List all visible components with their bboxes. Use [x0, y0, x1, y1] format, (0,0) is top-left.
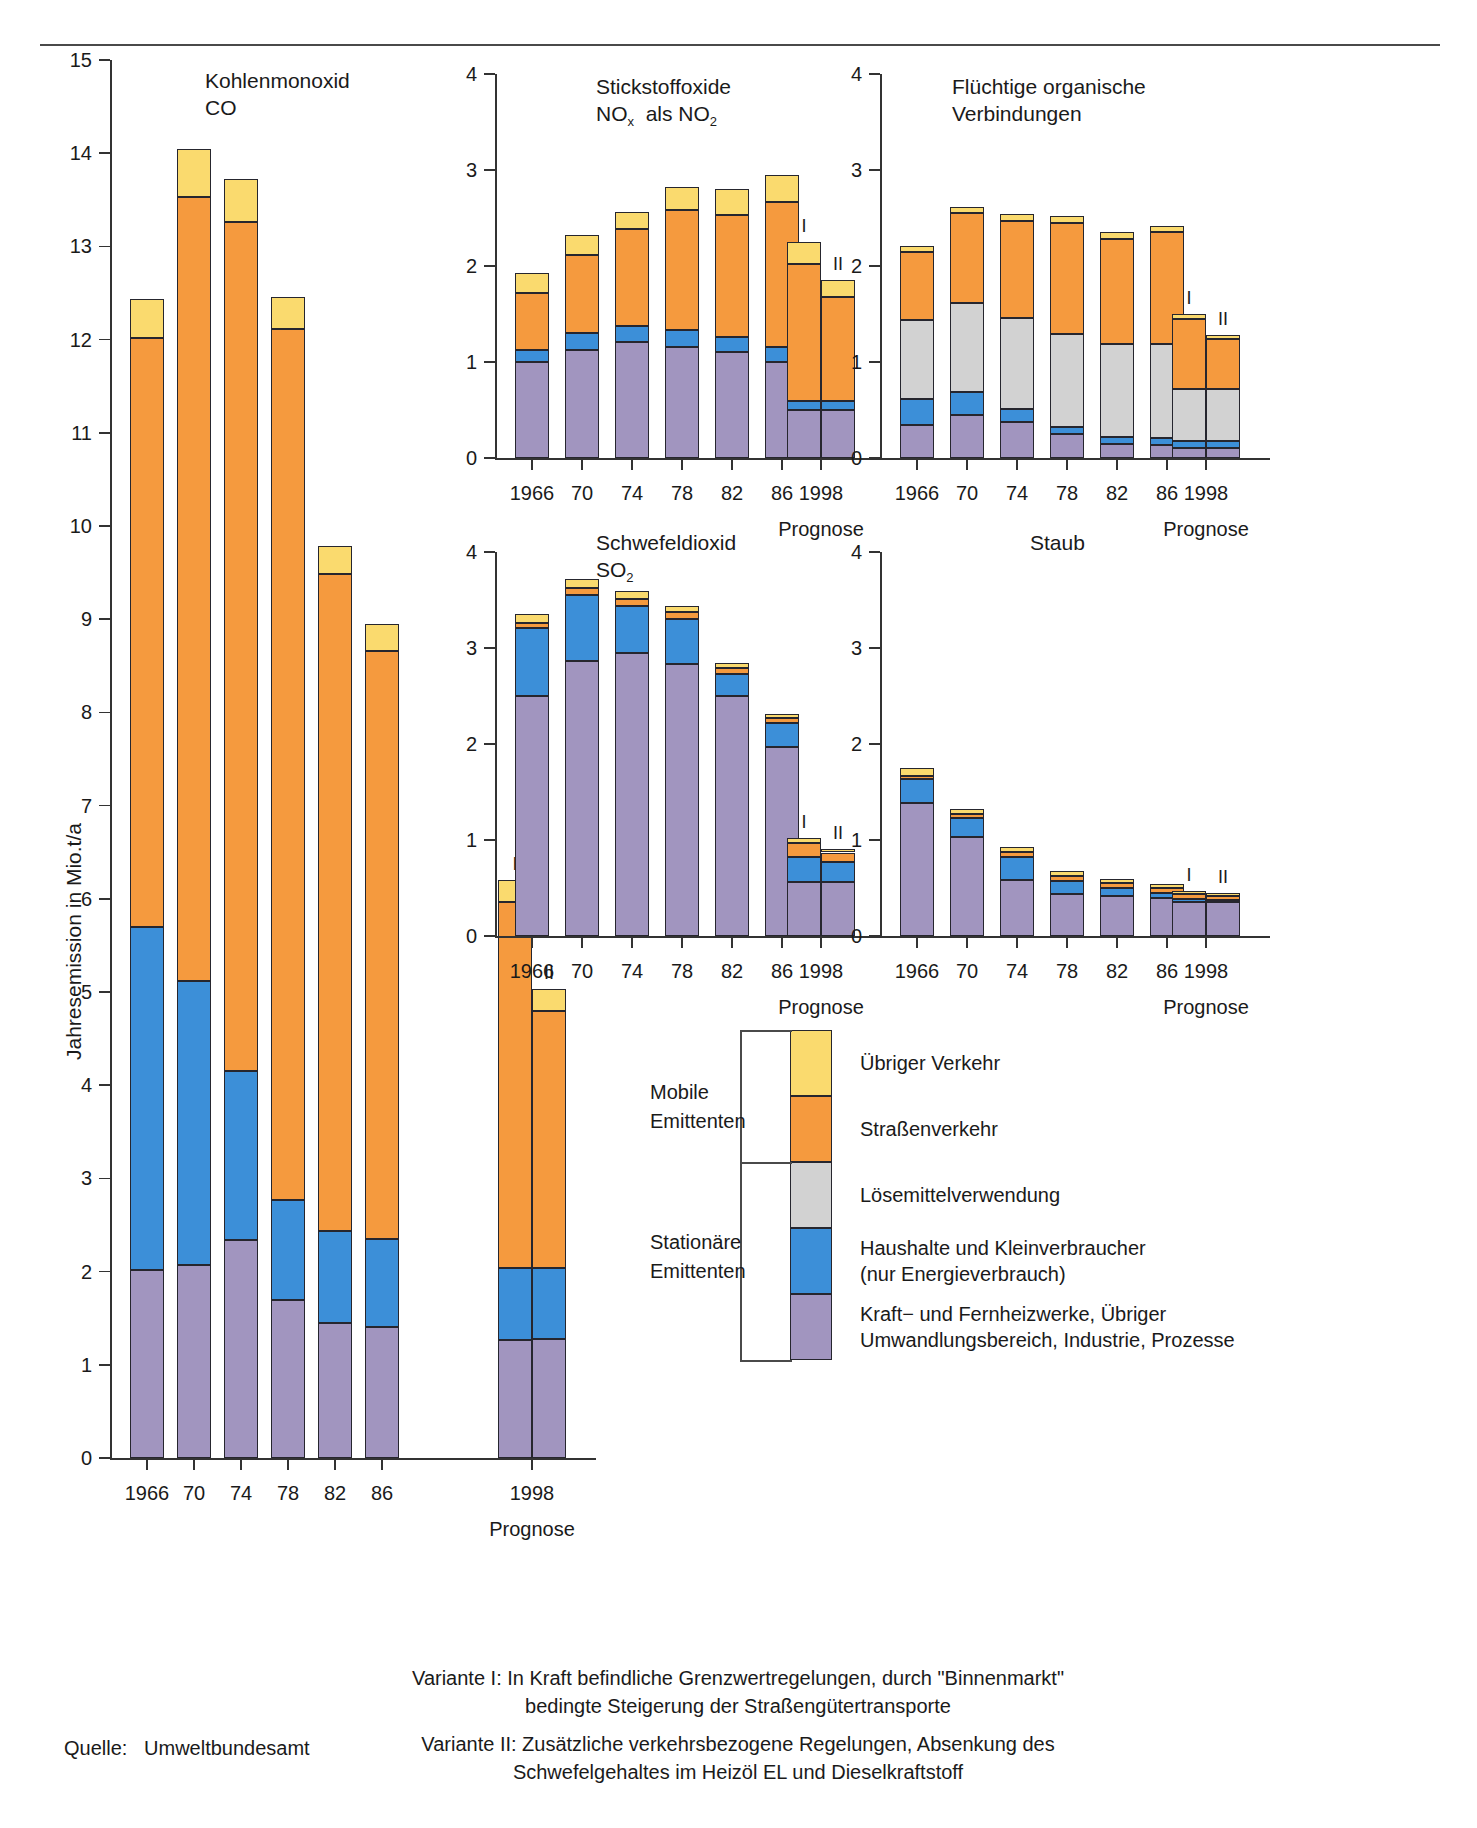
bar-segment [900, 252, 934, 320]
bar-segment [1050, 881, 1084, 893]
bar-segment [1206, 900, 1240, 903]
bar-segment [271, 1300, 305, 1458]
bar-segment [950, 303, 984, 391]
bar-segment [821, 280, 855, 296]
y-tick-label-staub-4: 4 [802, 541, 862, 564]
legend-label-line-1: Straßenverkehr [860, 1116, 998, 1142]
x-tick-label-so2-prognose-year: 1998 [799, 960, 844, 983]
bar-segment [1206, 335, 1240, 339]
bar-segment [950, 809, 984, 814]
y-tick-co-9 [99, 618, 110, 620]
bar-segment [318, 1323, 352, 1458]
y-tick-so2-0 [484, 935, 495, 937]
chart-title-line-1: Staub [1030, 530, 1085, 557]
bar-segment [318, 546, 352, 574]
bar-segment [1206, 893, 1240, 896]
y-tick-co-1 [99, 1364, 110, 1366]
x-tick-voc-74 [1016, 459, 1018, 470]
bar-segment [130, 1270, 164, 1458]
bar-segment [515, 696, 549, 936]
legend-label-strassenverkehr: Straßenverkehr [860, 1116, 998, 1142]
x-tick-label-so2-74: 74 [621, 960, 643, 983]
bar-segment [1050, 434, 1084, 458]
y-tick-label-voc-3: 3 [802, 159, 862, 182]
bar-segment [665, 347, 699, 458]
y-tick-co-14 [99, 152, 110, 154]
bar-segment [224, 222, 258, 1071]
bar-voc-70 [950, 74, 984, 458]
x-tick-co-74 [240, 1459, 242, 1470]
bar-so2-74 [615, 552, 649, 936]
y-tick-label-staub-1: 1 [802, 829, 862, 852]
x-tick-voc-86 [1166, 459, 1168, 470]
footnote-1-line-1: Variante I: In Kraft befindliche Grenzwe… [412, 1664, 1064, 1692]
prognose-label-staub: Prognose [1163, 996, 1249, 1019]
x-tick-label-nox-86: 86 [771, 482, 793, 505]
x-tick-label-voc-82: 82 [1106, 482, 1128, 505]
x-axis-voc [880, 458, 1270, 460]
y-tick-so2-3 [484, 647, 495, 649]
y-axis-nox [495, 74, 497, 458]
bar-segment [665, 187, 699, 210]
top-divider [40, 44, 1440, 46]
bar-co-86 [365, 60, 399, 1458]
x-tick-label-staub-prognose-year: 1998 [1184, 960, 1229, 983]
x-tick-label-co-82: 82 [324, 1482, 346, 1505]
y-tick-nox-1 [484, 361, 495, 363]
x-tick-label-staub-78: 78 [1056, 960, 1078, 983]
chart-subtitle: SO2 [596, 557, 736, 587]
prognose-label-nox: Prognose [778, 518, 864, 541]
bar-segment [365, 651, 399, 1239]
x-tick-staub-1966 [916, 937, 918, 948]
x-tick-label-so2-82: 82 [721, 960, 743, 983]
bar-segment [1100, 239, 1134, 344]
bar-segment [515, 628, 549, 696]
x-tick-staub-prognose [1205, 937, 1207, 948]
bar-nox-74 [615, 74, 649, 458]
y-axis-title: Jahresemission in Mio.t/a [62, 823, 86, 1060]
x-tick-label-nox-70: 70 [571, 482, 593, 505]
emissions-chart-page: 012345678910111213141519667074788286III1… [0, 0, 1477, 1828]
bar-segment [787, 857, 821, 882]
y-tick-staub-1 [869, 839, 880, 841]
bar-segment [224, 1240, 258, 1458]
bar-segment [715, 337, 749, 352]
bar-segment [177, 197, 211, 981]
bar-segment [950, 207, 984, 213]
bar-segment [565, 235, 599, 255]
y-tick-co-0 [99, 1457, 110, 1459]
x-tick-label-voc-prognose-year: 1998 [1184, 482, 1229, 505]
bar-segment [950, 392, 984, 415]
chart-title-nox: StickstoffoxideNOx als NO2 [596, 74, 731, 131]
bar-segment [515, 350, 549, 362]
x-tick-voc-70 [966, 459, 968, 470]
x-tick-voc-1966 [916, 459, 918, 470]
y-tick-co-6 [99, 898, 110, 900]
bar-so2-70 [565, 552, 599, 936]
bar-segment [1100, 879, 1134, 883]
x-tick-label-nox-74: 74 [621, 482, 643, 505]
y-tick-nox-4 [484, 73, 495, 75]
bar-segment [271, 1200, 305, 1300]
bar-so2-1966 [515, 552, 549, 936]
legend-label-line-1: Kraft− und Fernheizwerke, Übriger [860, 1301, 1235, 1327]
bar-segment [665, 606, 699, 613]
x-tick-label-co-86: 86 [371, 1482, 393, 1505]
chart-title-staub: Staub [1030, 530, 1085, 557]
bar-segment [565, 579, 599, 589]
legend-label-kraftwerke: Kraft− und Fernheizwerke, ÜbrigerUmwandl… [860, 1301, 1235, 1353]
chart-title-co: KohlenmonoxidCO [205, 68, 350, 122]
x-axis-staub [880, 936, 1270, 938]
y-tick-label-staub-0: 0 [802, 925, 862, 948]
y-tick-co-12 [99, 339, 110, 341]
x-tick-nox-74 [631, 459, 633, 470]
variant-label-staub-II: II [1218, 867, 1228, 888]
bar-segment [900, 399, 934, 425]
y-tick-staub-3 [869, 647, 880, 649]
y-tick-label-so2-3: 3 [417, 637, 477, 660]
bar-segment [665, 619, 699, 664]
source-value: Umweltbundesamt [144, 1737, 310, 1759]
x-tick-label-co-70: 70 [183, 1482, 205, 1505]
y-tick-so2-1 [484, 839, 495, 841]
y-axis-voc [880, 74, 882, 458]
